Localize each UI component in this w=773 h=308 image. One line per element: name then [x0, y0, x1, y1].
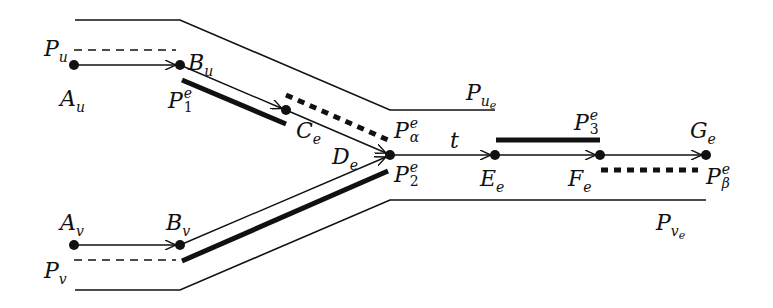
node-a-u — [69, 60, 79, 70]
label-p-ue: Pue — [466, 82, 496, 104]
node-f-e — [595, 150, 605, 160]
label-g-e: Ge — [690, 120, 716, 142]
label-p-ve: Pve — [656, 212, 685, 234]
label-p2e: Pe2 — [394, 162, 419, 190]
label-b-v: Bv — [166, 212, 190, 234]
label-p-v: Pv — [44, 260, 67, 282]
label-p-alpha: Peα — [394, 118, 419, 146]
label-p1e: Pe1 — [168, 88, 193, 116]
node-g-e — [701, 150, 711, 160]
node-a-v — [69, 240, 79, 250]
label-p-beta: Peβ — [706, 164, 730, 192]
label-a-v: Av — [60, 212, 84, 234]
node-c-e — [281, 105, 291, 115]
label-c-e: Ce — [296, 120, 321, 142]
label-a-u: Au — [60, 88, 85, 110]
node-b-v — [175, 240, 185, 250]
path-p1e-thick — [182, 80, 286, 124]
label-p-u: Pu — [44, 38, 68, 60]
node-d-e — [385, 150, 395, 160]
path-p2e-thick — [182, 171, 388, 261]
label-e-e: Ee — [480, 168, 504, 190]
label-edge-t: t — [450, 130, 459, 152]
label-f-e: Fe — [568, 168, 592, 190]
label-p3e: Pe3 — [574, 110, 599, 138]
label-d-e: De — [332, 146, 358, 168]
node-e-e — [490, 150, 500, 160]
label-b-u: Bu — [188, 52, 213, 74]
diagram-canvas — [0, 0, 773, 308]
node-b-u — [175, 60, 185, 70]
